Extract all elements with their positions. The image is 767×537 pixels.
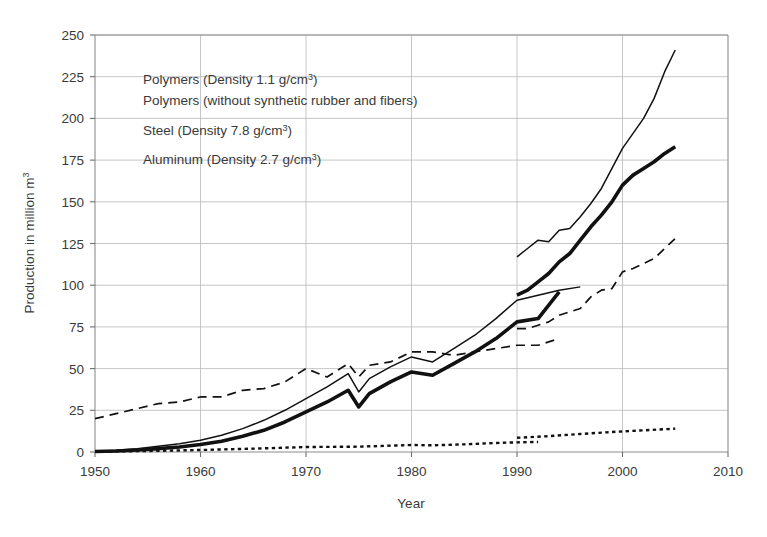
y-axis-tick-labels: 0255075100125150175200225250 [61, 28, 84, 460]
y-tick-label: 25 [69, 403, 84, 418]
x-axis-tickmarks [95, 452, 728, 457]
x-axis-tick-labels: 1950196019701980199020002010 [80, 464, 743, 479]
y-axis-title-base: Production in million m [22, 178, 37, 314]
chart-figure: 0255075100125150175200225250 19501960197… [0, 0, 767, 537]
legend-label-tail: ) [288, 123, 293, 138]
x-tick-label: 1990 [502, 464, 532, 479]
x-tick-label: 2010 [713, 464, 743, 479]
y-tick-label: 50 [69, 362, 84, 377]
legend-label-base: Aluminum (Density 2.7 g/cm [143, 152, 312, 167]
legend-label-base: Steel (Density 7.8 g/cm [143, 123, 283, 138]
legend-label-base: Polymers (Density 1.1 g/cm [143, 72, 308, 87]
x-tick-label: 1950 [80, 464, 110, 479]
x-tick-label: 2000 [607, 464, 637, 479]
legend-entry-polymers_total: Polymers (Density 1.1 g/cm3) [143, 72, 318, 87]
y-axis-title: Production in million m3 [21, 173, 37, 314]
y-tick-label: 100 [61, 278, 84, 293]
y-axis-tickmarks [90, 35, 95, 452]
x-tick-label: 1960 [185, 464, 215, 479]
legend-entry-polymers_net: Polymers (without synthetic rubber and f… [143, 93, 418, 108]
y-tick-label: 225 [61, 70, 84, 85]
x-tick-label: 1970 [291, 464, 321, 479]
legend-entry-steel: Steel (Density 7.8 g/cm3) [143, 123, 292, 138]
y-tick-label: 125 [61, 237, 84, 252]
legend-label-tail: ) [313, 72, 318, 87]
chart-canvas: 0255075100125150175200225250 19501960197… [0, 0, 767, 537]
y-tick-label: 0 [76, 445, 84, 460]
y-axis-title-exponent: 3 [21, 173, 31, 178]
x-tick-label: 1980 [396, 464, 426, 479]
y-tick-label: 150 [61, 195, 84, 210]
y-tick-label: 75 [69, 320, 84, 335]
legend-entry-aluminum: Aluminum (Density 2.7 g/cm3) [143, 152, 321, 167]
legend-label-base: Polymers (without synthetic rubber and f… [143, 93, 418, 108]
x-axis-title: Year [397, 496, 425, 511]
y-tick-label: 250 [61, 28, 84, 43]
y-tick-label: 200 [61, 111, 84, 126]
y-tick-label: 175 [61, 153, 84, 168]
legend-label-tail: ) [317, 152, 322, 167]
